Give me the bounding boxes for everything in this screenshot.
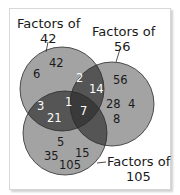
region-56-only-value: 56 bbox=[113, 73, 128, 87]
label-105-line2: 105 bbox=[126, 169, 151, 184]
label-56-line2: 56 bbox=[114, 39, 131, 54]
region-105-only-value: 35 bbox=[44, 149, 59, 163]
region-42-only-value: 6 bbox=[33, 67, 40, 81]
venn-diagram: Factors of 42 Factors of 56 Factors of 1… bbox=[0, 0, 180, 195]
region-42-56-value: 14 bbox=[89, 82, 104, 96]
label-42-line1: Factors of bbox=[17, 16, 81, 31]
label-42-line2: 42 bbox=[40, 31, 57, 46]
label-105-line1: Factors of bbox=[107, 154, 171, 169]
label-56-line1: Factors of bbox=[92, 24, 156, 39]
region-56-only-value: 28 bbox=[106, 97, 121, 111]
region-56-only-value: 8 bbox=[113, 112, 120, 126]
region-all-value: 1 bbox=[65, 95, 72, 109]
leader-line-105 bbox=[97, 162, 106, 163]
region-105-only-value: 105 bbox=[59, 158, 81, 172]
region-105-only-value: 5 bbox=[57, 135, 64, 149]
region-42-105-value: 21 bbox=[47, 111, 62, 125]
region-42-56-value: 2 bbox=[76, 71, 83, 85]
region-all-value: 7 bbox=[80, 104, 87, 118]
region-42-only-value: 42 bbox=[49, 56, 64, 70]
region-56-only-value: 4 bbox=[128, 97, 135, 111]
region-42-105-value: 3 bbox=[37, 99, 44, 113]
